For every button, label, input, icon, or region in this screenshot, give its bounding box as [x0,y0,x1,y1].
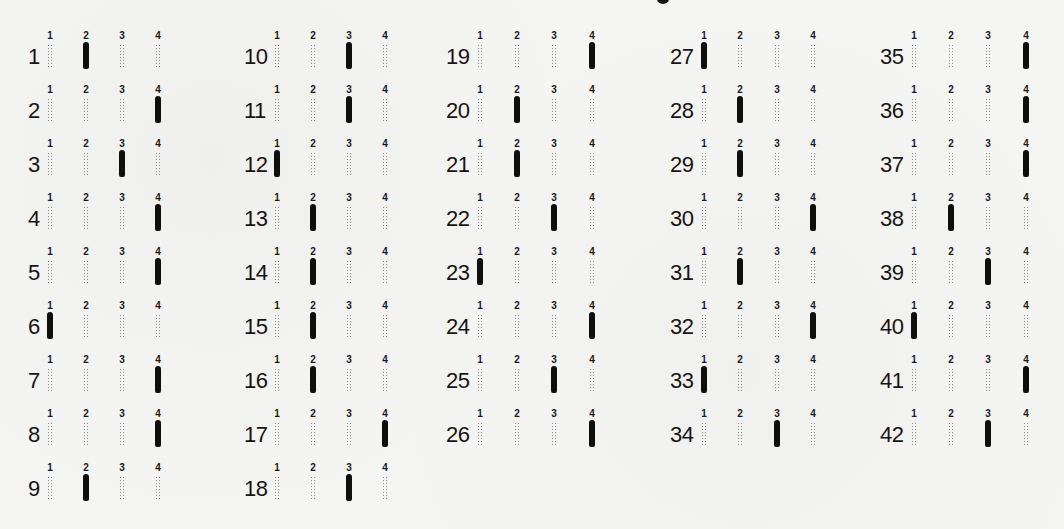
answer-bubble-filled[interactable] [551,366,557,393]
answer-bubble[interactable] [774,98,780,122]
answer-bubble[interactable] [274,314,280,338]
answer-bubble-filled[interactable] [346,474,352,501]
answer-bubble[interactable] [589,206,595,230]
answer-bubble[interactable] [1023,314,1029,338]
answer-bubble[interactable] [911,44,917,68]
answer-bubble[interactable] [47,476,53,500]
answer-bubble[interactable] [477,206,483,230]
answer-bubble[interactable] [774,152,780,176]
answer-bubble[interactable] [310,44,316,68]
answer-bubble[interactable] [589,260,595,284]
answer-bubble[interactable] [737,368,743,392]
answer-bubble[interactable] [83,368,89,392]
answer-bubble-filled[interactable] [47,312,53,339]
answer-bubble[interactable] [948,260,954,284]
answer-bubble[interactable] [774,44,780,68]
answer-bubble[interactable] [83,422,89,446]
answer-bubble-filled[interactable] [774,420,780,447]
answer-bubble[interactable] [155,476,161,500]
answer-bubble-filled[interactable] [477,258,483,285]
answer-bubble[interactable] [47,98,53,122]
answer-bubble[interactable] [155,152,161,176]
answer-bubble[interactable] [948,422,954,446]
answer-bubble-filled[interactable] [155,366,161,393]
answer-bubble[interactable] [274,368,280,392]
answer-bubble[interactable] [477,152,483,176]
answer-bubble[interactable] [47,152,53,176]
answer-bubble[interactable] [155,44,161,68]
answer-bubble[interactable] [589,368,595,392]
answer-bubble[interactable] [985,44,991,68]
answer-bubble-filled[interactable] [346,96,352,123]
answer-bubble[interactable] [155,314,161,338]
answer-bubble[interactable] [382,476,388,500]
answer-bubble-filled[interactable] [310,312,316,339]
answer-bubble[interactable] [119,314,125,338]
answer-bubble[interactable] [911,368,917,392]
answer-bubble-filled[interactable] [310,204,316,231]
answer-bubble[interactable] [985,98,991,122]
answer-bubble[interactable] [551,152,557,176]
answer-bubble[interactable] [47,44,53,68]
answer-bubble-filled[interactable] [589,42,595,69]
answer-bubble[interactable] [83,314,89,338]
answer-bubble[interactable] [47,206,53,230]
answer-bubble[interactable] [911,422,917,446]
answer-bubble[interactable] [774,368,780,392]
answer-bubble[interactable] [948,152,954,176]
answer-bubble[interactable] [810,260,816,284]
answer-bubble[interactable] [701,314,707,338]
answer-bubble[interactable] [274,422,280,446]
answer-bubble[interactable] [274,206,280,230]
answer-bubble[interactable] [477,98,483,122]
answer-bubble[interactable] [382,260,388,284]
answer-bubble-filled[interactable] [737,96,743,123]
answer-bubble[interactable] [47,422,53,446]
answer-bubble[interactable] [346,152,352,176]
answer-bubble[interactable] [551,98,557,122]
answer-bubble[interactable] [382,152,388,176]
answer-bubble[interactable] [985,206,991,230]
answer-bubble[interactable] [346,206,352,230]
answer-bubble-filled[interactable] [589,312,595,339]
answer-bubble[interactable] [911,260,917,284]
answer-bubble[interactable] [274,98,280,122]
answer-bubble-filled[interactable] [119,150,125,177]
answer-bubble[interactable] [948,44,954,68]
answer-bubble[interactable] [810,152,816,176]
answer-bubble[interactable] [810,98,816,122]
answer-bubble[interactable] [310,152,316,176]
answer-bubble-filled[interactable] [985,420,991,447]
answer-bubble-filled[interactable] [514,96,520,123]
answer-bubble[interactable] [47,260,53,284]
answer-bubble[interactable] [346,314,352,338]
answer-bubble[interactable] [911,206,917,230]
answer-bubble[interactable] [119,206,125,230]
answer-bubble[interactable] [119,368,125,392]
answer-bubble[interactable] [83,152,89,176]
answer-bubble[interactable] [810,422,816,446]
answer-bubble[interactable] [948,368,954,392]
answer-bubble[interactable] [514,368,520,392]
answer-bubble[interactable] [310,98,316,122]
answer-bubble[interactable] [948,98,954,122]
answer-bubble[interactable] [589,152,595,176]
answer-bubble[interactable] [274,260,280,284]
answer-bubble-filled[interactable] [310,258,316,285]
answer-bubble[interactable] [911,98,917,122]
answer-bubble[interactable] [514,44,520,68]
answer-bubble[interactable] [346,260,352,284]
answer-bubble[interactable] [477,314,483,338]
answer-bubble-filled[interactable] [83,474,89,501]
answer-bubble[interactable] [774,206,780,230]
answer-bubble[interactable] [551,44,557,68]
answer-bubble[interactable] [310,476,316,500]
answer-bubble[interactable] [477,44,483,68]
answer-bubble[interactable] [47,368,53,392]
answer-bubble-filled[interactable] [155,204,161,231]
answer-bubble[interactable] [382,44,388,68]
answer-bubble-filled[interactable] [701,42,707,69]
answer-bubble[interactable] [737,314,743,338]
answer-bubble[interactable] [514,422,520,446]
answer-bubble-filled[interactable] [514,150,520,177]
